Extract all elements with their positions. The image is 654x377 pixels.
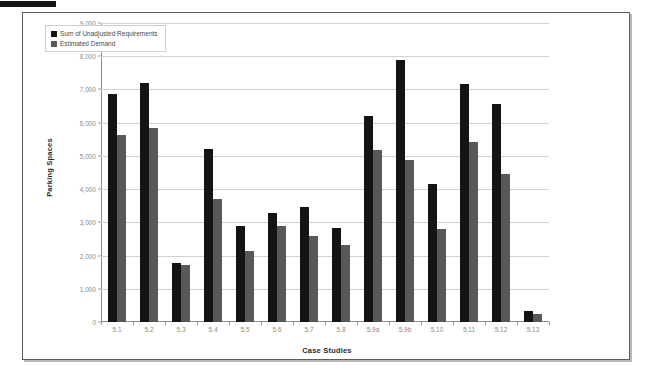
- y-tick-label: 7,000: [80, 86, 96, 93]
- y-tick-label: 0: [92, 319, 96, 326]
- bar-group: [293, 23, 325, 322]
- bar: [108, 94, 117, 322]
- bar-group: [485, 23, 517, 322]
- x-tick-label: 5.3: [176, 326, 185, 333]
- x-tick-mark: [101, 322, 102, 325]
- bar: [460, 84, 469, 322]
- x-tick-label: 5.6: [272, 326, 281, 333]
- bar: [300, 207, 309, 322]
- x-tick-label: 5.9a: [367, 326, 380, 333]
- x-tick-mark: [133, 322, 134, 325]
- x-tick-label: 5.1: [112, 326, 121, 333]
- bar-group: [229, 23, 261, 322]
- legend-item[interactable]: Sum of Unadjusted Requirements: [51, 30, 158, 37]
- y-tick-label: 8,000: [80, 53, 96, 60]
- bar-group: [325, 23, 357, 322]
- bar: [332, 228, 341, 322]
- bar: [236, 226, 245, 322]
- x-tick-label: 5.12: [495, 326, 508, 333]
- y-tick-label: 2,000: [80, 252, 96, 259]
- y-tick-label: 3,000: [80, 219, 96, 226]
- y-tick-label: 4,000: [80, 186, 96, 193]
- bar-group: [165, 23, 197, 322]
- chart-figure-frame: Parking Spaces Case Studies 01,0002,0003…: [22, 12, 630, 360]
- bar: [213, 199, 222, 322]
- legend-item[interactable]: Estimated Demand: [51, 40, 158, 47]
- bar: [277, 226, 286, 322]
- y-tick-label: 5,000: [80, 152, 96, 159]
- x-tick-mark: [261, 322, 262, 325]
- x-tick-label: 5.7: [304, 326, 313, 333]
- bar: [469, 142, 478, 322]
- bar: [524, 311, 533, 322]
- legend-swatch-icon: [51, 41, 57, 47]
- bar: [364, 116, 373, 322]
- bar: [396, 60, 405, 322]
- y-tick-label: 6,000: [80, 119, 96, 126]
- x-tick-label: 5.9b: [399, 326, 412, 333]
- x-tick-label: 5.2: [144, 326, 153, 333]
- x-tick-mark: [421, 322, 422, 325]
- bar: [117, 135, 126, 322]
- x-tick-label: 5.4: [208, 326, 217, 333]
- bar: [501, 174, 510, 322]
- bar: [437, 229, 446, 322]
- bar: [181, 265, 190, 322]
- bar-group: [517, 23, 549, 322]
- x-tick-mark: [485, 322, 486, 325]
- bar: [309, 236, 318, 322]
- chart-legend: Sum of Unadjusted RequirementsEstimated …: [45, 25, 166, 52]
- bar-group: [197, 23, 229, 322]
- x-tick-mark: [389, 322, 390, 325]
- bar: [341, 245, 350, 322]
- x-tick-mark: [357, 322, 358, 325]
- bar: [204, 149, 213, 322]
- bar-chart: Parking Spaces Case Studies 01,0002,0003…: [23, 13, 631, 361]
- bar-group: [357, 23, 389, 322]
- bar: [428, 184, 437, 322]
- y-axis-title: Parking Spaces: [45, 98, 54, 238]
- x-tick-mark: [549, 322, 550, 325]
- x-tick-mark: [229, 322, 230, 325]
- bar: [140, 83, 149, 322]
- bar-group: [453, 23, 485, 322]
- x-tick-mark: [453, 322, 454, 325]
- legend-item-label: Estimated Demand: [60, 40, 115, 47]
- bar-group: [261, 23, 293, 322]
- x-tick-label: 5.10: [431, 326, 444, 333]
- page-edge-mark: [0, 1, 56, 7]
- x-tick-label: 5.13: [527, 326, 540, 333]
- bar-group: [101, 23, 133, 322]
- bar-group: [389, 23, 421, 322]
- x-tick-label: 5.8: [336, 326, 345, 333]
- x-tick-mark: [293, 322, 294, 325]
- x-tick-mark: [197, 322, 198, 325]
- x-tick-mark: [165, 322, 166, 325]
- bar: [149, 128, 158, 322]
- bar: [405, 160, 414, 322]
- bar-group: [421, 23, 453, 322]
- bar: [268, 213, 277, 322]
- x-tick-label: 5.11: [463, 326, 475, 333]
- bar-group: [133, 23, 165, 322]
- x-tick-label: 5.5: [240, 326, 249, 333]
- x-axis-title: Case Studies: [23, 346, 631, 355]
- bar: [172, 263, 181, 322]
- x-tick-mark: [325, 322, 326, 325]
- legend-swatch-icon: [51, 31, 57, 37]
- plot-area: 01,0002,0003,0004,0005,0006,0007,0008,00…: [101, 23, 549, 322]
- bar: [373, 150, 382, 322]
- legend-item-label: Sum of Unadjusted Requirements: [60, 30, 158, 37]
- bar: [492, 104, 501, 322]
- x-tick-mark: [517, 322, 518, 325]
- bar: [533, 314, 542, 322]
- bar: [245, 251, 254, 322]
- y-tick-label: 1,000: [80, 285, 96, 292]
